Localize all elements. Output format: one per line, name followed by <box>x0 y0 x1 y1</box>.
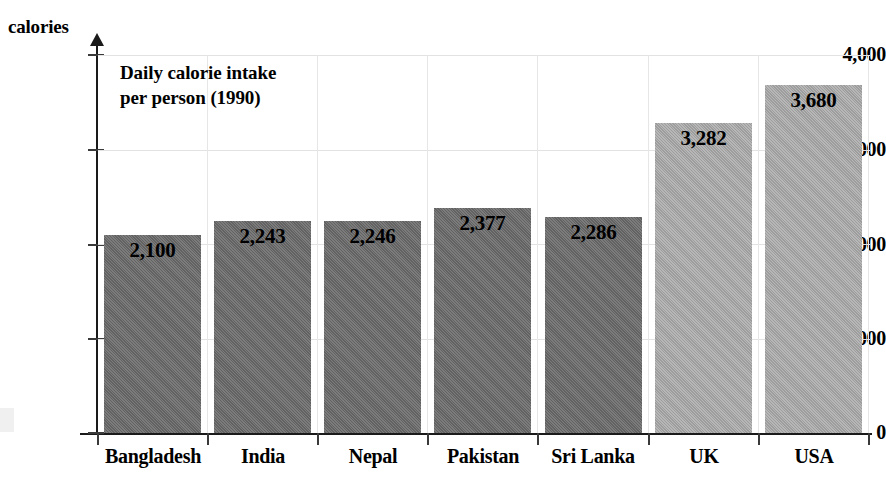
bar-value-pakistan: 2,377 <box>434 213 531 234</box>
plot-area: Daily calorie intake per person (1990) 2… <box>98 55 870 433</box>
bar-value-uk: 3,282 <box>655 128 752 149</box>
x-tick-mark-4 <box>537 433 539 445</box>
chart-title-line-2: per person (1990) <box>120 85 276 110</box>
y-axis-arrow-icon <box>90 33 104 46</box>
bar-bangladesh: 2,100 <box>104 235 201 433</box>
x-category-label-sri-lanka: Sri Lanka <box>538 445 648 467</box>
x-tick-mark-2 <box>317 433 319 445</box>
bar-value-india: 2,243 <box>214 226 311 247</box>
x-tick-mark-7 <box>868 433 870 445</box>
gridline-vertical-1 <box>207 55 208 433</box>
bar-value-bangladesh: 2,100 <box>104 240 201 261</box>
x-category-label-nepal: Nepal <box>318 445 428 467</box>
gridline-vertical-2 <box>317 55 318 433</box>
gridline-vertical-6 <box>758 55 759 433</box>
gridline-vertical-5 <box>648 55 649 433</box>
gridline-vertical-7 <box>868 55 869 433</box>
y-axis-title: calories <box>8 16 69 38</box>
bar-india: 2,243 <box>214 221 311 433</box>
x-tick-mark-0 <box>97 433 99 445</box>
x-tick-mark-3 <box>427 433 429 445</box>
x-category-label-pakistan: Pakistan <box>428 445 538 467</box>
bar-value-nepal: 2,246 <box>324 226 421 247</box>
gridline-vertical-4 <box>537 55 538 433</box>
gridline-3000 <box>98 150 870 151</box>
x-tick-mark-6 <box>758 433 760 445</box>
bar-usa: 3,680 <box>765 85 862 433</box>
bar-sri-lanka: 2,286 <box>545 217 642 433</box>
scan-artifact <box>0 408 14 432</box>
x-tick-mark-1 <box>207 433 209 445</box>
bar-uk: 3,282 <box>655 123 752 433</box>
bar-chart: calories 4,000 3,000 2,000 1,000 0 <box>0 0 886 498</box>
x-axis-line <box>80 433 872 435</box>
gridline-4000 <box>98 55 870 56</box>
bar-value-usa: 3,680 <box>765 90 862 111</box>
x-category-label-bangladesh: Bangladesh <box>98 445 208 467</box>
gridline-vertical-3 <box>427 55 428 433</box>
bar-value-sri-lanka: 2,286 <box>545 222 642 243</box>
x-category-label-usa: USA <box>759 445 869 467</box>
x-category-label-uk: UK <box>649 445 759 467</box>
chart-title-line-1: Daily calorie intake <box>120 60 276 85</box>
x-category-label-india: India <box>208 445 318 467</box>
chart-title: Daily calorie intake per person (1990) <box>120 60 276 110</box>
bar-nepal: 2,246 <box>324 221 421 433</box>
x-tick-mark-5 <box>648 433 650 445</box>
bar-pakistan: 2,377 <box>434 208 531 433</box>
